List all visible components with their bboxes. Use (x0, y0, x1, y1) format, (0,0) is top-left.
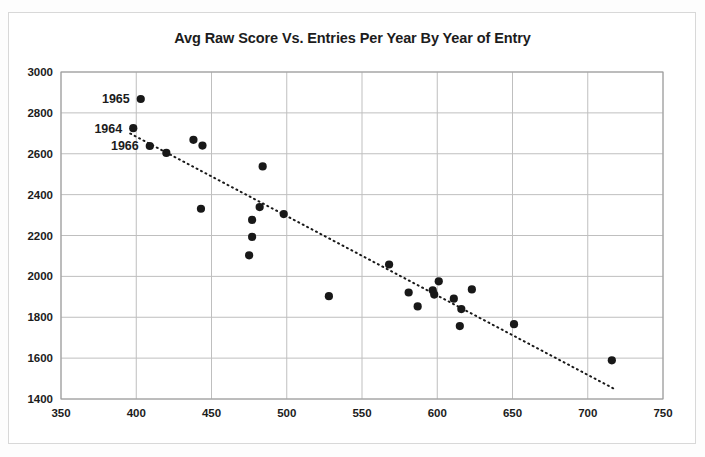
y-tick-1800: 1800 (27, 311, 53, 323)
scatter-plot: 350400450500550600650700750 140016001800… (0, 0, 705, 457)
x-tick-500: 500 (277, 407, 296, 419)
annotation-1964: 1964 (94, 122, 122, 136)
data-point-19 (435, 277, 443, 285)
data-point-7 (259, 162, 267, 170)
chart-container: Avg Raw Score Vs. Entries Per Year By Ye… (0, 0, 705, 457)
x-tick-700: 700 (578, 407, 597, 419)
point-annotations: 196519641966 (94, 92, 138, 153)
y-tick-1400: 1400 (27, 393, 53, 405)
data-point-24 (510, 320, 518, 328)
data-point-2 (146, 142, 154, 150)
trendline-path (130, 134, 613, 389)
y-tick-2600: 2600 (27, 148, 53, 160)
annotation-1966: 1966 (111, 139, 139, 153)
data-point-16 (414, 302, 422, 310)
data-point-10 (248, 233, 256, 241)
y-tick-1600: 1600 (27, 352, 53, 364)
x-tick-650: 650 (503, 407, 522, 419)
data-point-25 (608, 356, 616, 364)
data-point-14 (385, 260, 393, 268)
y-axis-tick-labels: 140016001800200022002400260028003000 (27, 66, 53, 405)
y-tick-2200: 2200 (27, 230, 53, 242)
data-point-20 (450, 295, 458, 303)
data-point-15 (405, 288, 413, 296)
x-tick-450: 450 (202, 407, 221, 419)
data-point-12 (280, 210, 288, 218)
data-point-9 (256, 203, 264, 211)
x-tick-400: 400 (127, 407, 146, 419)
data-point-23 (468, 285, 476, 293)
data-point-5 (198, 141, 206, 149)
x-tick-750: 750 (653, 407, 672, 419)
annotation-1965: 1965 (102, 92, 130, 106)
data-point-0 (137, 95, 145, 103)
data-point-6 (197, 205, 205, 213)
y-tick-2400: 2400 (27, 189, 53, 201)
data-point-21 (457, 305, 465, 313)
data-point-3 (162, 149, 170, 157)
data-point-1 (129, 124, 137, 132)
data-point-13 (325, 292, 333, 300)
data-point-18 (430, 290, 438, 298)
data-point-22 (456, 322, 464, 330)
x-tick-600: 600 (428, 407, 447, 419)
y-tick-2000: 2000 (27, 270, 53, 282)
data-point-4 (189, 136, 197, 144)
y-tick-2800: 2800 (27, 107, 53, 119)
trendline (130, 134, 613, 389)
x-tick-350: 350 (51, 407, 70, 419)
data-point-8 (248, 216, 256, 224)
x-tick-550: 550 (352, 407, 371, 419)
y-tick-3000: 3000 (27, 66, 53, 78)
x-axis-tick-labels: 350400450500550600650700750 (51, 407, 672, 419)
data-points (129, 95, 616, 365)
data-point-11 (245, 251, 253, 259)
